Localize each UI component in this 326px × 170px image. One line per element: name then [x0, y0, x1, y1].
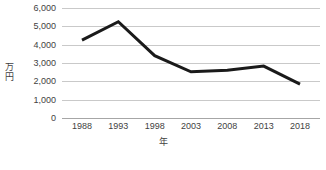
y-axis-title-char: 円: [2, 73, 16, 83]
plot-area: [62, 8, 320, 118]
x-axis-tick-label: 2008: [217, 121, 237, 131]
y-axis-tick-label: 6,000: [33, 3, 56, 13]
y-axis-tick-label: 0: [51, 113, 56, 123]
x-axis-tick-label: 2013: [254, 121, 274, 131]
x-axis-tick-label: 1988: [72, 121, 92, 131]
x-axis-tick-label: 2003: [181, 121, 201, 131]
y-axis-tick-label: 3,000: [33, 58, 56, 68]
x-axis-tick-label: 1993: [108, 121, 128, 131]
x-axis-tick-label: 1998: [145, 121, 165, 131]
y-axis-tick-label: 5,000: [33, 21, 56, 31]
line-chart: 万円 01,0002,0003,0004,0005,0006,000 19881…: [0, 0, 326, 170]
series-line: [62, 8, 320, 118]
series-polyline: [82, 22, 300, 84]
y-axis-tick-label: 1,000: [33, 95, 56, 105]
gridline: [62, 118, 320, 119]
x-axis-tick-labels: 1988199319982003200820132018: [62, 121, 320, 135]
x-axis-title: 年: [0, 135, 326, 148]
y-axis-tick-label: 2,000: [33, 76, 56, 86]
x-axis-tick-label: 2018: [290, 121, 310, 131]
y-axis-tick-label: 4,000: [33, 40, 56, 50]
y-axis-title: 万円: [2, 63, 16, 82]
